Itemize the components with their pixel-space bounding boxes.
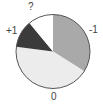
pie-chart	[0, 0, 103, 104]
label-plus-one: +1	[6, 26, 17, 36]
label-zero: 0	[51, 92, 57, 102]
label-unknown: ?	[28, 2, 34, 12]
label-minus-one: -1	[89, 25, 98, 35]
